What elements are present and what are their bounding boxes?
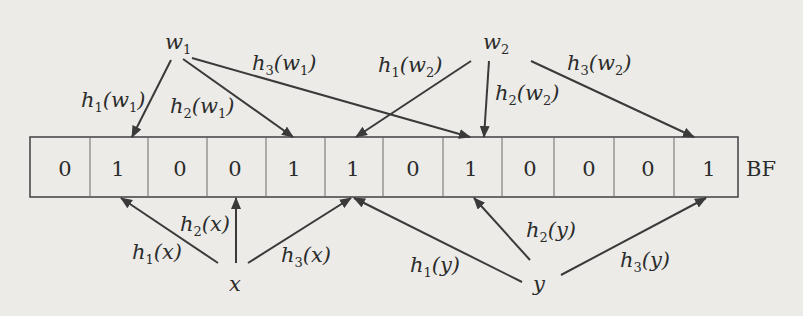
- bit-array: 0 1 0 0 1 1 0 1 0 0 0 1: [30, 137, 738, 197]
- label-h3-x: h3(x): [281, 243, 331, 270]
- bit-8: 0: [523, 157, 536, 181]
- bit-10: 0: [641, 157, 654, 181]
- bit-9: 0: [582, 157, 595, 181]
- bloom-filter-diagram: 0 1 0 0 1 1 0 1 0 0 0 1 BF w1 w2 x y h1(…: [0, 0, 803, 316]
- arrow-h2-y: [474, 198, 530, 260]
- label-h1-y: h1(y): [410, 253, 460, 280]
- label-h3-y: h3(y): [620, 248, 670, 275]
- element-y: y: [532, 272, 546, 296]
- bit-2: 0: [173, 157, 186, 181]
- element-w2: w2: [483, 30, 509, 57]
- label-h2-y: h2(y): [526, 218, 576, 245]
- element-w1: w1: [165, 30, 191, 57]
- label-h1-x: h1(x): [132, 240, 182, 267]
- bit-1: 1: [111, 157, 124, 181]
- arrow-h3-x: [248, 198, 351, 263]
- label-h2-x: h2(x): [180, 212, 230, 239]
- bit-3: 0: [228, 157, 241, 181]
- label-h2-w2: h2(w2): [495, 81, 559, 108]
- label-h3-w2: h3(w2): [567, 51, 631, 78]
- element-x: x: [229, 272, 241, 296]
- arrow-h2-w2: [484, 61, 489, 137]
- array-label: BF: [746, 157, 776, 181]
- bit-6: 0: [406, 157, 419, 181]
- label-h2-w1: h2(w1): [170, 94, 234, 121]
- bit-0: 0: [58, 157, 71, 181]
- bit-11: 1: [702, 157, 715, 181]
- bit-4: 1: [287, 157, 300, 181]
- label-h3-w1: h3(w1): [252, 51, 316, 78]
- label-h1-w2: h1(w2): [378, 53, 442, 80]
- bit-5: 1: [346, 157, 359, 181]
- label-h1-w1: h1(w1): [81, 88, 145, 115]
- bit-7: 1: [464, 157, 477, 181]
